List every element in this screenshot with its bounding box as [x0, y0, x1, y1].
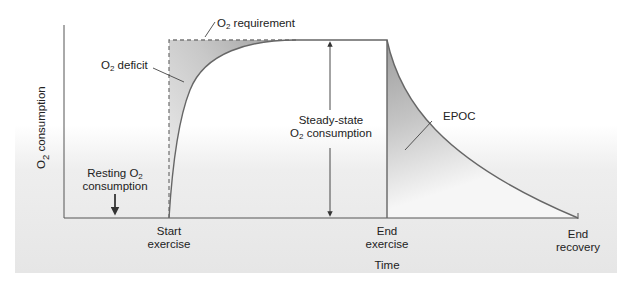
epoc-diagram: O2 consumption O2 requirement O2 deficit… [0, 0, 633, 286]
o2-requirement-leader [205, 22, 215, 37]
start-exercise-label: Start exercise [144, 225, 194, 251]
epoc-area [387, 40, 578, 218]
steady-state-label: Steady-state O2 consumption [266, 114, 396, 140]
o2-deficit-label: O2 deficit [101, 59, 148, 72]
resting-o2-label: Resting O2 consumption [75, 167, 155, 193]
end-exercise-label: End exercise [362, 225, 412, 251]
x-axis-label: Time [367, 259, 407, 272]
diagram-graphics [0, 0, 633, 286]
end-recovery-label: End recovery [553, 228, 603, 254]
y-axis-label: O2 consumption [35, 63, 50, 193]
o2-requirement-label: O2 requirement [217, 17, 295, 30]
epoc-label: EPOC [443, 110, 476, 123]
